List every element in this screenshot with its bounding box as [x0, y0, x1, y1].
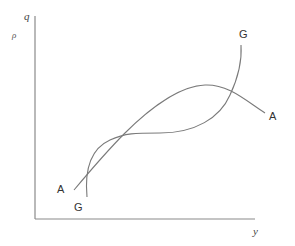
- x-axis-label-y: y: [252, 225, 258, 237]
- diagram-canvas: q ρ y A A G G: [0, 0, 295, 246]
- y-axis-label-q: q: [24, 10, 30, 22]
- y-axis-label-rho: ρ: [11, 30, 17, 40]
- curve-g-start-label: G: [74, 201, 83, 213]
- curve-a-end-label: A: [269, 110, 277, 122]
- curve-a: [74, 85, 265, 190]
- curve-g: [86, 45, 241, 197]
- curve-a-start-label: A: [57, 183, 65, 195]
- curve-g-end-label: G: [239, 28, 248, 40]
